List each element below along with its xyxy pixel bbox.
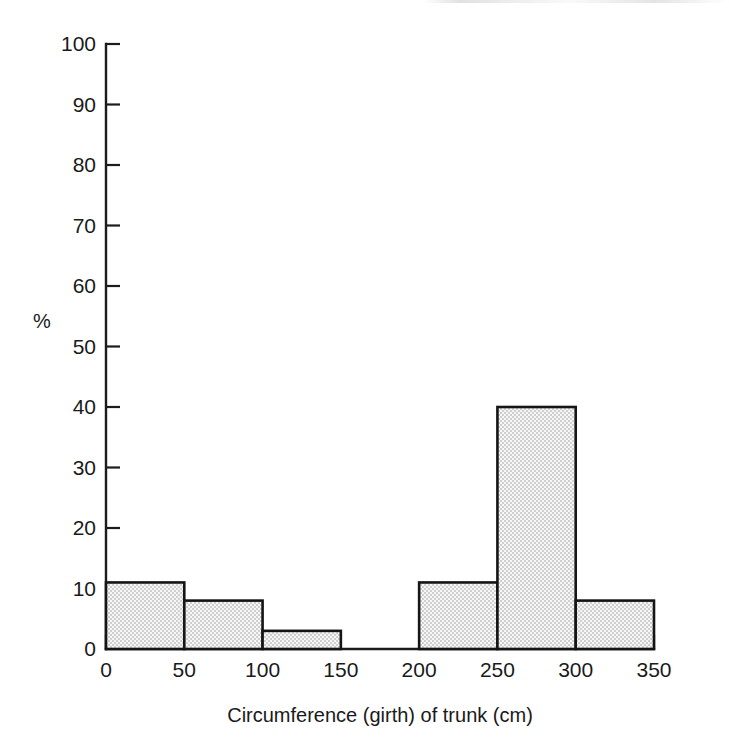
histogram-bar	[419, 582, 497, 649]
y-tick-label: 30	[73, 456, 96, 479]
histogram-bar	[497, 407, 575, 649]
x-tick-label: 350	[636, 658, 671, 681]
y-tick-label: 50	[73, 335, 96, 358]
plot-area: 0102030405060708090100%05010015020025030…	[33, 32, 671, 726]
x-tick-label: 150	[323, 658, 358, 681]
x-tick-label: 300	[558, 658, 593, 681]
y-tick-label: 10	[73, 577, 96, 600]
chart-canvas: 0102030405060708090100%05010015020025030…	[0, 0, 729, 750]
y-tick-label: 0	[84, 637, 96, 660]
histogram-bar	[576, 601, 654, 649]
y-tick-label: 60	[73, 274, 96, 297]
x-tick-label: 250	[480, 658, 515, 681]
y-tick-label: 90	[73, 93, 96, 116]
y-tick-label: 100	[61, 32, 96, 55]
x-axis-title: Circumference (girth) of trunk (cm)	[227, 704, 533, 726]
x-tick-label: 200	[402, 658, 437, 681]
y-tick-label: 70	[73, 214, 96, 237]
x-tick-label: 100	[245, 658, 280, 681]
y-tick-label: 80	[73, 153, 96, 176]
histogram-figure: 0102030405060708090100%05010015020025030…	[0, 0, 729, 750]
x-tick-label: 50	[173, 658, 196, 681]
x-tick-label: 0	[100, 658, 112, 681]
histogram-bar	[106, 582, 184, 649]
histogram-bar	[263, 631, 341, 649]
histogram-bar	[184, 601, 262, 649]
y-tick-label: 20	[73, 516, 96, 539]
y-axis-unit-label: %	[33, 310, 51, 332]
y-tick-label: 40	[73, 395, 96, 418]
